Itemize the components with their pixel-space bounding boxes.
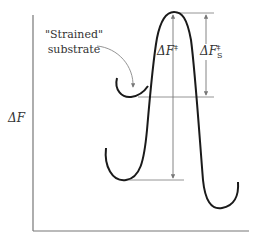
y-axis-label: ΔF xyxy=(8,112,25,124)
delta-fs-sup: ‡ xyxy=(216,43,220,52)
strained-label-line1: "Strained" xyxy=(45,27,103,42)
delta-f-sup: ‡ xyxy=(174,43,178,52)
strained-well-curve xyxy=(116,78,148,97)
delta-fs-sub: S xyxy=(217,51,222,60)
energy-curve xyxy=(106,12,238,208)
delta-fs-text: ΔF xyxy=(200,44,217,58)
delta-fs-label: ΔFS‡ xyxy=(199,44,221,60)
strained-label-line2: substrate xyxy=(45,42,103,57)
energy-diagram xyxy=(0,0,258,243)
strained-substrate-label: "Strained" substrate xyxy=(45,27,103,57)
delta-f-label: ΔF‡ xyxy=(157,44,178,57)
delta-f-text: ΔF xyxy=(157,44,174,58)
